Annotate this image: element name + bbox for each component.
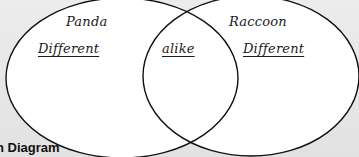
panda-title: Panda bbox=[66, 14, 107, 29]
intersection-alike-label: alike bbox=[162, 41, 195, 56]
panda-different-label: Different bbox=[38, 41, 99, 56]
venn-diagram bbox=[0, 0, 359, 157]
raccoon-different-label: Different bbox=[243, 41, 304, 56]
diagram-caption: n Diagram bbox=[0, 140, 60, 155]
raccoon-title: Raccoon bbox=[229, 14, 287, 29]
circle-fills bbox=[6, 0, 359, 157]
